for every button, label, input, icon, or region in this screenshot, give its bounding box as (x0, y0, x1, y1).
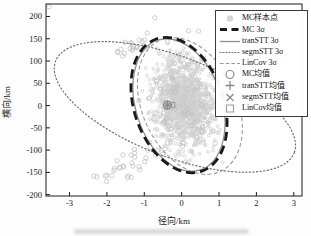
legend-label: MC均值 (242, 69, 270, 80)
legend-item-transtt-mean: tranSTT均值 (218, 81, 307, 92)
legend-item-segmstt-3sigma: segmSTT 3σ (218, 47, 307, 58)
legend-item-transtt-3sigma: tranSTT 3σ (218, 36, 307, 47)
circle-marker-icon (218, 69, 242, 80)
y-tick-label: -50 (31, 123, 42, 133)
y-axis-label: 横向/km (1, 86, 12, 118)
legend-item-lincov-mean: LinCov均值 (218, 103, 307, 114)
x-tick-label: -3 (66, 198, 73, 208)
x-tick-label: 1 (217, 198, 221, 208)
x-tick-label: 3 (292, 198, 296, 208)
legend-item-mc-3sigma: MC 3σ (218, 25, 307, 36)
y-tick-label: -200 (26, 190, 42, 200)
sample-point-icon (218, 14, 242, 23)
fine-dashed-line-icon (218, 59, 242, 68)
legend-item-mc-mean: MC均值 (218, 69, 307, 80)
y-tick-label: 100 (29, 56, 42, 66)
x-tick-label: -1 (141, 198, 148, 208)
legend-label: segmSTT均值 (242, 92, 289, 103)
y-tick-label: -100 (26, 145, 42, 155)
x-tick-label: -2 (103, 198, 110, 208)
legend-label: LinCov 3σ (242, 58, 277, 69)
y-tick-label: 150 (29, 34, 42, 44)
thick-dashed-line-icon (218, 25, 242, 34)
legend-label: MC样本点 (242, 13, 278, 24)
legend-label: tranSTT均值 (242, 81, 285, 92)
figure: -3-2-10123200150100500-50-100-150-200 径向… (0, 0, 311, 236)
x-tick-label: 0 (180, 198, 184, 208)
y-tick-label: 0 (38, 101, 42, 111)
dotted-line-icon (218, 48, 242, 57)
legend-item-lincov-3sigma: LinCov 3σ (218, 58, 307, 69)
y-tick-label: 50 (34, 78, 43, 88)
legend-item-mc-samples: MC样本点 (218, 13, 307, 24)
legend-label: tranSTT 3σ (242, 36, 279, 47)
x-marker-icon (218, 92, 242, 103)
solid-line-icon (218, 37, 242, 46)
x-axis-label: 径向/km (158, 215, 190, 226)
legend-label: segmSTT 3σ (242, 47, 283, 58)
legend-box: MC样本点 MC 3σ tranSTT 3σ segmSTT 3σ LinCov… (215, 10, 308, 117)
y-tick-label: 200 (29, 11, 42, 21)
y-tick-label: -150 (26, 167, 42, 177)
square-marker-icon (218, 103, 242, 114)
plus-marker-icon (218, 80, 242, 91)
legend-label: LinCov均值 (242, 103, 282, 114)
x-tick-label: 2 (254, 198, 258, 208)
legend-label: MC 3σ (242, 25, 265, 36)
legend-item-segmstt-mean: segmSTT均值 (218, 92, 307, 103)
cropped-caption-text (74, 229, 249, 234)
